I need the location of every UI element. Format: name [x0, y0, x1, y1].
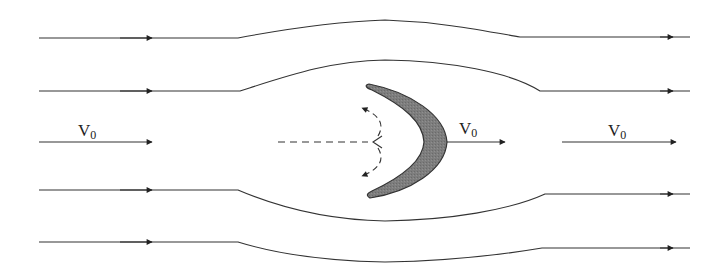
wake	[278, 108, 382, 176]
velocity-label-downstream: V0	[608, 122, 626, 141]
streamline-top-outer	[39, 20, 690, 38]
crescent-body	[366, 84, 447, 198]
wake-chevron	[373, 136, 382, 148]
wake-curl-down-arrow-icon	[362, 148, 381, 176]
streamline-top-inner	[39, 60, 690, 91]
diagram-canvas	[0, 0, 708, 269]
streamline-bottom-inner	[39, 190, 690, 221]
flow-diagram: V0 V0 V0	[0, 0, 708, 269]
streamline-bottom-outer	[39, 242, 690, 262]
wake-curl-up-arrow-icon	[362, 108, 381, 136]
velocity-label-upstream: V0	[78, 122, 96, 141]
velocity-label-body: V0	[459, 120, 477, 139]
